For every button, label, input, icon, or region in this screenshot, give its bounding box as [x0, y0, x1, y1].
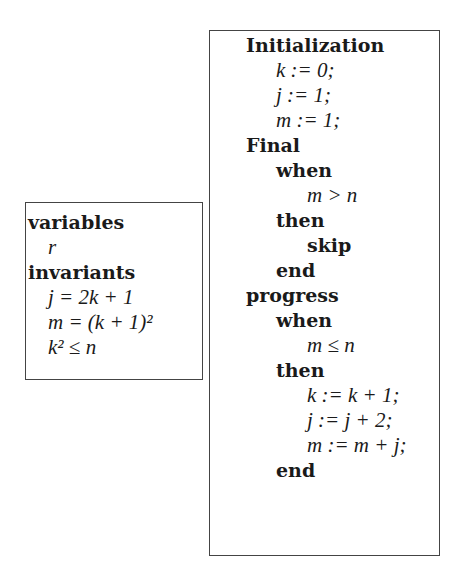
- keyword-then: then: [276, 209, 325, 231]
- invariant-m: m = (k + 1)²: [48, 311, 153, 333]
- guard-progress: m ≤ n: [307, 334, 355, 356]
- invariant-k: k² ≤ n: [48, 336, 96, 358]
- action-k: k := k + 1;: [307, 384, 399, 406]
- keyword-end: end: [276, 459, 315, 481]
- init-j: j := 1;: [276, 84, 331, 106]
- events-box: Initialization k := 0; j := 1; m := 1; F…: [209, 30, 440, 556]
- keyword-final: Final: [246, 134, 300, 156]
- keyword-variables: variables: [28, 211, 124, 233]
- action-j: j := j + 2;: [307, 409, 393, 431]
- keyword-initialization: Initialization: [246, 34, 384, 56]
- keyword-when: when: [276, 159, 332, 181]
- init-k: k := 0;: [276, 59, 334, 81]
- keyword-end: end: [276, 259, 315, 281]
- guard-final: m > n: [307, 184, 357, 206]
- keyword-invariants: invariants: [28, 261, 135, 283]
- variables-invariants-box: variables r invariants j = 2k + 1 m = (k…: [25, 202, 203, 380]
- keyword-progress: progress: [246, 284, 339, 306]
- keyword-when: when: [276, 309, 332, 331]
- keyword-then: then: [276, 359, 325, 381]
- action-m: m := m + j;: [307, 434, 407, 456]
- init-m: m := 1;: [276, 109, 340, 131]
- variable-r: r: [48, 236, 56, 258]
- invariant-j: j = 2k + 1: [48, 286, 134, 308]
- keyword-skip: skip: [307, 234, 351, 256]
